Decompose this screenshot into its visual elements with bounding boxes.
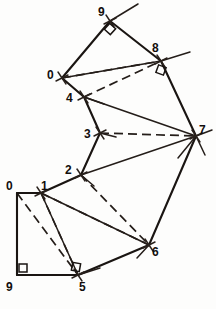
station-label-n7: 7 [199,124,206,136]
station-label-n0bot: 0 [6,180,13,192]
edge-6-7 [149,136,196,245]
tie-3-7-dashed [100,133,196,136]
station-tick-marks-group [35,15,202,281]
right-angle-mark-n9bot [19,264,27,272]
station-label-n6: 6 [152,246,159,258]
station-label-n8: 8 [152,42,159,54]
tie-0bot-5-dashed [17,193,78,275]
right-angle-mark-n8 [156,65,166,75]
tie-1-6-solid [41,193,149,245]
tie-2-7-solid [81,136,196,175]
traverse-diagram-canvas [0,0,216,309]
tie-0top-8-solid [62,61,161,78]
tie-4-8-dashed [84,61,161,97]
station-label-n2: 2 [65,164,72,176]
tie-2-6-dashed [81,175,149,245]
station-label-n4: 4 [66,92,73,104]
traverse-diagram: 980437210659 [0,0,216,309]
station-label-n9bot: 9 [6,281,13,293]
station-label-n3: 3 [84,128,91,140]
dashed-tie-lines-group [17,61,196,275]
edge-8-7 [161,61,196,136]
edge-5-6 [78,245,149,275]
ray-past-8 [161,52,190,61]
station-label-n9top: 9 [98,6,105,18]
station-label-n5: 5 [79,281,86,293]
station-label-n0top: 0 [47,69,54,81]
station-label-n1: 1 [41,180,48,192]
edge-0top-9top [62,21,110,78]
